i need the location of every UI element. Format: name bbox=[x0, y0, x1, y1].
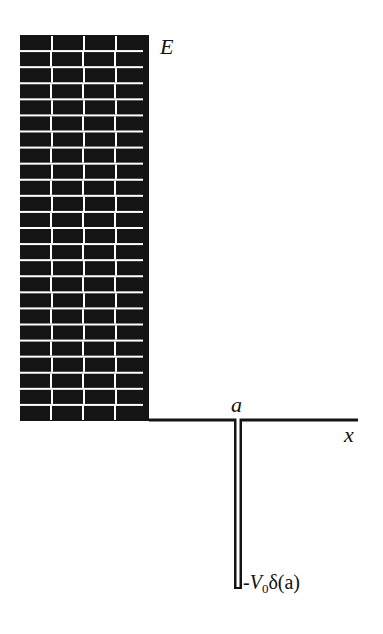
potential-symbol: V bbox=[250, 571, 262, 593]
potential-suffix: δ(a) bbox=[268, 571, 300, 593]
potential-label: -V0δ(a) bbox=[243, 572, 300, 595]
potential-diagram-svg bbox=[0, 0, 383, 634]
x-axis-line bbox=[149, 419, 358, 422]
position-a-label: a bbox=[231, 394, 242, 416]
brick-wall bbox=[20, 35, 149, 421]
potential-prefix: - bbox=[243, 571, 250, 593]
delta-well bbox=[234, 419, 242, 590]
energy-label: E bbox=[160, 36, 173, 58]
x-axis-label: x bbox=[344, 424, 354, 446]
diagram-canvas: E a x -V0δ(a) bbox=[0, 0, 383, 634]
